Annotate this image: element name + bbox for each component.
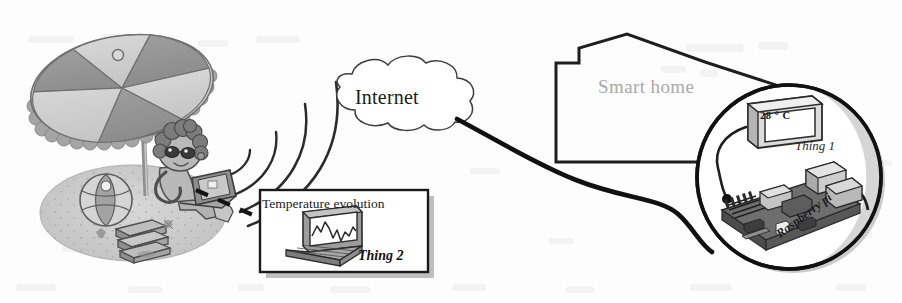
diagram-canvas: Internet Smart home Temperature evolutio… (0, 0, 902, 303)
thick-curved-cable (457, 119, 712, 252)
smart-home-label: Smart home (598, 76, 694, 98)
thing2-title: Temperature evolution (262, 196, 384, 212)
beach-scene (23, 22, 236, 263)
temperature-reading: 28 ° C (760, 110, 791, 121)
diagram-vector-layer (0, 0, 902, 303)
thing2-label: Thing 2 (358, 248, 404, 264)
beach-ball-icon (80, 174, 132, 226)
thing1-label: Thing 1 (795, 138, 835, 154)
magnifier-circle (697, 85, 885, 273)
